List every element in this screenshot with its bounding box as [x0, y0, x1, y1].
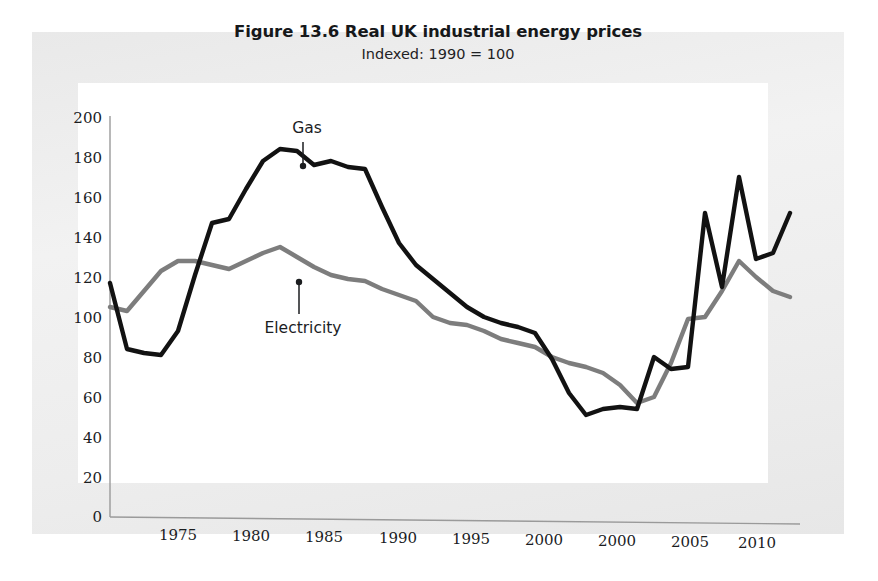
figure-root: Figure 13.6 Real UK industrial energy pr… [0, 0, 878, 581]
y-axis-tick-labels: 200 180 160 140 120 100 80 60 40 20 0 [73, 109, 102, 526]
y-tick-20: 20 [83, 469, 102, 487]
x-tick-2: 1985 [305, 528, 343, 546]
x-tick-7: 2005 [671, 533, 709, 551]
y-tick-60: 60 [83, 389, 102, 407]
y-tick-140: 140 [73, 229, 102, 247]
x-tick-4: 1995 [452, 530, 490, 548]
y-tick-120: 120 [73, 269, 102, 287]
y-tick-160: 160 [73, 189, 102, 207]
annotation-electricity-label: Electricity [265, 319, 342, 337]
series-line-gas [110, 149, 790, 415]
y-tick-40: 40 [83, 429, 102, 447]
x-tick-0: 1975 [159, 526, 197, 544]
x-axis-tick-labels: 1975 1980 1985 1990 1995 2000 2000 2005 … [159, 526, 776, 552]
x-tick-1: 1980 [232, 527, 270, 545]
chart-svg: 200 180 160 140 120 100 80 60 40 20 0 19… [0, 0, 878, 581]
y-tick-200: 200 [73, 109, 102, 127]
x-tick-6: 2000 [598, 532, 636, 550]
y-tick-180: 180 [73, 149, 102, 167]
annotation-gas-arrowhead-icon [300, 163, 306, 169]
y-tick-100: 100 [73, 309, 102, 327]
annotation-gas-label: Gas [292, 119, 322, 137]
x-tick-5: 2000 [525, 531, 563, 549]
y-tick-0: 0 [92, 508, 102, 526]
x-tick-3: 1990 [379, 529, 417, 547]
x-tick-8: 2010 [738, 534, 776, 552]
annotation-electricity: Electricity [265, 279, 342, 337]
series-line-electricity [110, 247, 790, 403]
x-axis-line [110, 517, 800, 524]
y-tick-80: 80 [83, 349, 102, 367]
annotation-electricity-arrowhead-icon [296, 279, 302, 285]
